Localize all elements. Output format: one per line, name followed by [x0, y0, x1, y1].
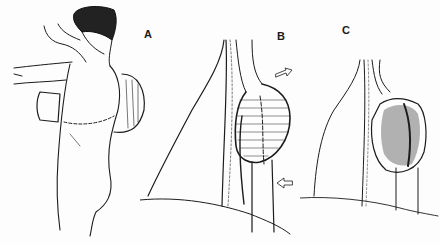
medical-illustration: A B — [0, 0, 440, 243]
panel-c-drawing — [300, 0, 440, 243]
panel-c: C — [300, 0, 440, 243]
panel-b: B — [140, 0, 310, 243]
panel-label-c: C — [342, 24, 350, 36]
panel-label-b: B — [277, 30, 285, 42]
